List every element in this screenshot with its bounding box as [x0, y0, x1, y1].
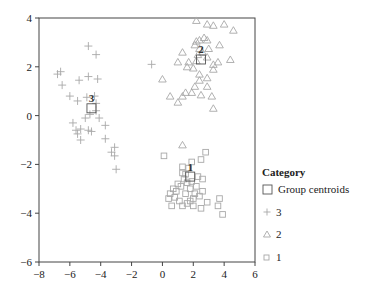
point-group-1	[180, 164, 186, 170]
x-tick-label: −8	[33, 268, 45, 280]
point-group-3	[74, 97, 82, 105]
point-group-3	[72, 126, 80, 134]
y-tick-label: −4	[20, 207, 32, 219]
point-group-2	[185, 58, 193, 65]
point-group-3	[101, 135, 109, 143]
centroid-label-2: 2	[198, 43, 204, 55]
point-group-2	[230, 27, 238, 34]
point-group-2	[203, 83, 211, 90]
point-group-1	[198, 206, 204, 212]
point-group-3	[94, 75, 102, 83]
x-tick-label: 0	[160, 268, 166, 280]
legend-label-2: 2	[276, 228, 282, 240]
point-group-3	[69, 119, 77, 127]
x-axis: −8−6−4−20246	[33, 262, 258, 280]
x-tick-label: 2	[191, 268, 197, 280]
point-group-3	[92, 51, 100, 59]
point-group-2	[205, 45, 213, 52]
point-group-2	[174, 58, 182, 65]
y-tick-label: −2	[20, 158, 32, 170]
y-axis: −6−4−2024	[20, 12, 39, 268]
point-group-2	[208, 93, 216, 100]
point-group-1	[203, 149, 209, 155]
point-group-2	[174, 99, 182, 106]
legend-marker-square	[264, 255, 269, 260]
data-points	[54, 17, 238, 217]
legend: Category Group centroids 3 2 1	[262, 166, 349, 263]
point-group-3	[66, 92, 74, 100]
point-group-1	[198, 157, 204, 163]
legend-title: Category	[262, 166, 306, 178]
point-group-1	[217, 196, 223, 202]
point-group-3	[58, 81, 66, 89]
point-group-3	[84, 73, 92, 81]
point-group-2	[179, 141, 187, 148]
centroid-marker-3	[87, 104, 96, 113]
y-tick-label: 2	[27, 61, 33, 73]
y-tick-label: 0	[27, 110, 33, 122]
legend-marker-triangle	[264, 231, 271, 237]
point-group-3	[81, 114, 89, 122]
point-group-2	[216, 41, 224, 48]
plot-frame	[39, 18, 255, 262]
scatter-chart: −8−6−4−20246 −6−4−2024 321 Category Grou…	[0, 0, 366, 296]
legend-label-group-centroids: Group centroids	[278, 183, 349, 195]
point-group-1	[220, 212, 226, 218]
legend-label-1: 1	[276, 251, 282, 263]
point-group-1	[161, 153, 167, 159]
point-group-3	[101, 121, 109, 129]
point-group-3	[112, 165, 120, 173]
point-group-2	[203, 21, 211, 28]
point-group-3	[95, 114, 103, 122]
centroid-label-1: 1	[187, 161, 193, 173]
x-tick-label: 4	[221, 268, 227, 280]
point-group-2	[159, 76, 167, 83]
point-group-2	[220, 21, 228, 28]
point-group-2	[196, 77, 204, 84]
y-tick-label: 4	[27, 12, 33, 24]
point-group-3	[84, 42, 92, 50]
centroid-label-3: 3	[89, 92, 95, 104]
point-group-2	[227, 56, 235, 63]
y-tick-label: −6	[20, 256, 32, 268]
legend-label-3: 3	[276, 206, 282, 218]
point-group-2	[183, 63, 191, 70]
point-group-2	[203, 74, 211, 81]
x-tick-label: −2	[126, 268, 138, 280]
x-tick-label: −6	[64, 268, 76, 280]
x-tick-label: 6	[252, 268, 258, 280]
point-group-2	[166, 93, 174, 100]
legend-marker-plus	[264, 209, 271, 216]
point-group-2	[210, 66, 218, 73]
point-group-3	[75, 76, 83, 84]
point-group-1	[215, 203, 221, 209]
point-group-2	[191, 83, 199, 90]
point-group-2	[179, 49, 187, 56]
plot-border	[39, 18, 255, 262]
point-group-2	[203, 54, 211, 61]
legend-marker-group-centroids	[263, 185, 272, 194]
point-group-2	[197, 91, 205, 98]
point-group-1	[204, 199, 210, 205]
x-tick-label: −4	[95, 268, 107, 280]
point-group-2	[210, 105, 218, 112]
point-group-1	[169, 203, 175, 209]
point-group-3	[148, 60, 156, 68]
